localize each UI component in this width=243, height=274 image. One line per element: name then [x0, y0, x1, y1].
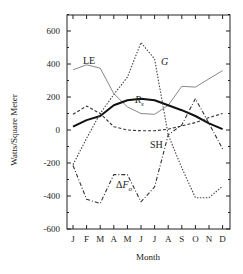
- y-tick-label: -600: [44, 224, 61, 234]
- series-label: G: [161, 56, 168, 67]
- y-tick-label: -400: [44, 191, 61, 201]
- series-label: SH: [150, 139, 163, 150]
- series-fo-line: [73, 99, 223, 204]
- month-label: N: [206, 234, 213, 244]
- series-le-line: [73, 65, 223, 115]
- month-label: J: [153, 234, 157, 244]
- y-tick-label: 0: [56, 125, 61, 135]
- series-g-line: [73, 43, 223, 198]
- series-labels: LERsSHGΔFo: [83, 55, 168, 193]
- x-axis-title: Month: [136, 252, 161, 262]
- month-label: J: [139, 234, 143, 244]
- x-axis-ticks: JFMAMJJASOND: [71, 15, 226, 244]
- month-label: M: [123, 234, 131, 244]
- month-label: D: [219, 234, 226, 244]
- y-tick-label: -200: [44, 158, 61, 168]
- y-tick-label: 400: [47, 59, 61, 69]
- month-label: M: [96, 234, 104, 244]
- month-label: S: [179, 234, 184, 244]
- month-label: A: [111, 234, 118, 244]
- month-label: F: [84, 234, 89, 244]
- month-label: J: [71, 234, 75, 244]
- series-label: LE: [83, 55, 95, 66]
- y-axis-ticks: -600-400-2000200400600: [44, 15, 231, 235]
- month-label: A: [165, 234, 172, 244]
- month-label: O: [192, 234, 199, 244]
- series-lines: [73, 43, 223, 204]
- series-label: Rs: [134, 94, 144, 108]
- y-tick-label: 200: [47, 92, 61, 102]
- series-label: ΔFo: [116, 179, 133, 193]
- chart: -600-400-2000200400600 JFMAMJJASOND LERs…: [0, 0, 243, 274]
- y-axis-title: Watts/Square Meter: [9, 94, 19, 166]
- y-tick-label: 600: [47, 26, 61, 36]
